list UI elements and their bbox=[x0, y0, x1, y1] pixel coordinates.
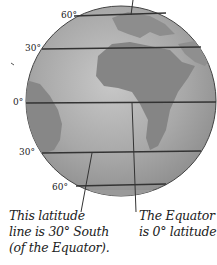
label-60s: 60° bbox=[52, 182, 68, 192]
stray-mark bbox=[11, 63, 14, 65]
caption-left-line-3: (of the Equator). bbox=[9, 240, 109, 256]
globe-sphere bbox=[26, 6, 216, 196]
caption-equator: The Equator is 0° latitude. bbox=[139, 208, 217, 240]
label-equator: 0° bbox=[13, 97, 23, 107]
caption-right-line-1: The Equator bbox=[139, 208, 217, 224]
label-30s: 30° bbox=[19, 147, 35, 157]
label-30n: 30° bbox=[25, 43, 41, 53]
caption-right-line-2: is 0° latitude. bbox=[139, 224, 217, 240]
caption-30-south: This latitude line is 30° South (of the … bbox=[9, 208, 109, 256]
caption-left-line-1: This latitude bbox=[9, 208, 109, 224]
label-60n: 60° bbox=[61, 10, 77, 20]
caption-left-line-2: line is 30° South bbox=[9, 224, 109, 240]
antarctica-landmass bbox=[60, 190, 180, 200]
